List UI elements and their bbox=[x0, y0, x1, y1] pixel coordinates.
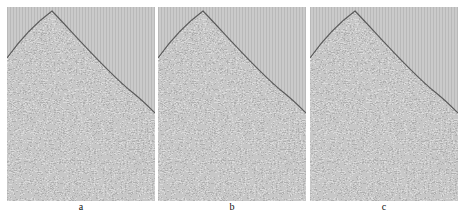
seismic-gather-c bbox=[310, 7, 458, 201]
panel-label-a: a bbox=[7, 201, 155, 213]
panel-b bbox=[158, 7, 306, 201]
panel-label-c: c bbox=[310, 201, 458, 213]
panel-label-b: b bbox=[158, 201, 306, 213]
seismic-gather-a bbox=[7, 7, 155, 201]
seismic-gather-b bbox=[158, 7, 306, 201]
figure: a b c bbox=[0, 0, 463, 214]
panel-a bbox=[7, 7, 155, 201]
panel-c bbox=[310, 7, 458, 201]
